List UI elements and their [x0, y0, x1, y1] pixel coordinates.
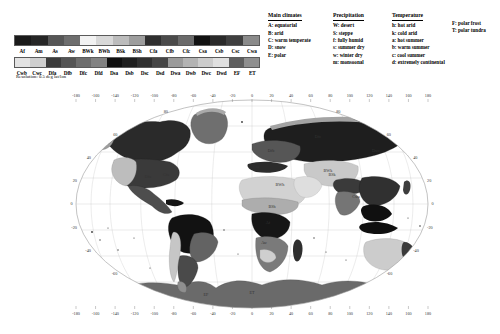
map-region-label-cwa: Cwa [352, 194, 360, 199]
climate-legend: AfAmAsAwBWkBWhBSkBShCfaCfbCfcCsaCsbCscCw… [14, 35, 260, 79]
lon-tick-top-12: 60 [309, 93, 313, 98]
lon-tick-top-6: -60 [191, 93, 197, 98]
legend-swatch-bwh [96, 36, 112, 45]
legend-code-dsa: Dsa [106, 68, 121, 79]
lon-tick-top-4: -100 [150, 93, 158, 98]
lon-tick-top-15: 120 [366, 93, 372, 98]
legend-swatch-dwd [213, 58, 228, 67]
lon-tick-bottom-8: -20 [230, 311, 236, 316]
lon-tick-bottom-0: -180 [72, 311, 80, 316]
lon-tick-top-0: -180 [72, 93, 80, 98]
lon-tick-bottom-15: 120 [366, 311, 372, 316]
legend-code-bwk: BWk [80, 46, 96, 57]
lon-tick-bottom-4: -100 [150, 311, 158, 316]
legend-label-row-1: AfAmAsAwBWkBWhBSkBShCfaCfbCfcCsaCsbCscCw… [14, 46, 260, 57]
legend-swatch-dfa [46, 58, 61, 67]
legend-swatch-af [15, 36, 31, 45]
map-region-label-bsk: BSk [328, 172, 336, 177]
lat-tick-right-2: -20 [427, 225, 433, 230]
legend-entry-main-1: B: arid [268, 30, 330, 37]
lon-tick-top-14: 100 [347, 93, 353, 98]
lon-tick-bottom-10: 20 [269, 311, 273, 316]
lon-tick-bottom-1: -160 [92, 311, 100, 316]
legend-heading-precipitation: Precipitation [333, 12, 364, 21]
legend-column-temperature: Temperature h: hot aridk: cold arida: ho… [392, 12, 452, 67]
map-region-label-aw: Aw [261, 240, 267, 245]
legend-entry-main-0: A: equatorial [268, 22, 330, 29]
lon-tick-bottom-5: -80 [171, 311, 177, 316]
legend-swatch-dwc [198, 58, 213, 67]
legend-swatch-dsb [122, 58, 137, 67]
legend-entry-precip-4: w: winter dry [333, 52, 391, 59]
legend-heading-main-climates: Main climates [268, 12, 302, 21]
legend-swatch-dfc [76, 58, 91, 67]
legend-code-dfd: Dfd [91, 68, 106, 79]
lon-tick-top-16: 140 [386, 93, 392, 98]
legend-column-precipitation: Precipitation W: desertS: steppef: fully… [333, 12, 391, 67]
legend-code-csa: Csa [194, 46, 210, 57]
legend-swatch-am [31, 36, 47, 45]
lon-tick-bottom-16: 140 [386, 311, 392, 316]
legend-entry-temp-0: h: hot arid [392, 22, 452, 29]
legend-code-cfc: Cfc [178, 46, 194, 57]
legend-code-et: ET [245, 68, 260, 79]
legend-entry-polar-0: F: polar frost [452, 20, 500, 27]
lon-tick-bottom-18: 180 [425, 311, 431, 316]
legend-code-cfb: Cfb [162, 46, 178, 57]
lon-tick-top-3: -120 [131, 93, 139, 98]
lat-tick-left-2: -20 [71, 225, 77, 230]
map-region-label-af: Af [266, 220, 271, 225]
legend-entry-precip-0: W: desert [333, 22, 391, 29]
map-canvas: ETEFDfcDfbDfaBWhBShAwAfCfaCfbCsaBWkDwcCw… [56, 82, 448, 322]
legend-code-dsb: Dsb [122, 68, 137, 79]
legend-entries-temperature: h: hot aridk: cold arida: hot summerb: w… [392, 22, 452, 66]
legend-swatch-cfc [178, 36, 194, 45]
legend-entry-precip-2: f: fully humid [333, 37, 391, 44]
legend-code-bsh: BSh [129, 46, 145, 57]
legend-swatch-cfa [145, 36, 161, 45]
lon-tick-top-5: -80 [171, 93, 177, 98]
legend-code-as: As [47, 46, 63, 57]
legend-entry-polar-1: T: polar tundra [452, 27, 500, 34]
legend-swatch-row-1 [14, 35, 260, 46]
legend-code-dwc: Dwc [199, 68, 214, 79]
lon-tick-bottom-11: 40 [289, 311, 293, 316]
landmass-antarctica [114, 280, 389, 311]
legend-swatch-csb [210, 36, 226, 45]
lat-tick-left-5: 40 [87, 155, 91, 160]
legend-entry-temp-4: c: cool summer [392, 52, 452, 59]
legend-entry-temp-1: k: cold arid [392, 30, 452, 37]
legend-entry-precip-3: s: summer dry [333, 44, 391, 51]
map-svg: ETEFDfcDfbDfaBWhBShAwAfCfaCfbCsaBWkDwcCw… [56, 82, 448, 322]
lon-tick-bottom-14: 100 [347, 311, 353, 316]
lat-tick-left-7: 80 [164, 109, 168, 114]
legend-swatch-cwb [15, 58, 30, 67]
legend-entry-main-3: D: snow [268, 44, 330, 51]
legend-entry-precip-1: S: steppe [333, 30, 391, 37]
map-region-label-bwh: BWh [276, 182, 286, 187]
legend-entries-main-climates: A: equatorialB: aridC: warm temperateD: … [268, 22, 330, 59]
map-region-label-csa: Csa [253, 164, 259, 169]
legend-code-dwb: Dwb [183, 68, 198, 79]
map-region-label-bsh: BSh [268, 204, 276, 209]
lat-tick-right-3: 0 [432, 201, 434, 206]
lon-tick-bottom-3: -120 [131, 311, 139, 316]
lon-tick-top-9: 0 [251, 93, 253, 98]
lon-tick-bottom-7: -40 [210, 311, 216, 316]
legend-code-dsc: Dsc [137, 68, 152, 79]
legend-swatch-dsc [137, 58, 152, 67]
legend-swatch-bwk [80, 36, 96, 45]
lon-tick-top-10: 20 [269, 93, 273, 98]
lon-tick-bottom-13: 80 [328, 311, 332, 316]
legend-code-csc: Csc [227, 46, 243, 57]
legend-code-cwa: Cwa [244, 46, 260, 57]
legend-entry-temp-3: b: warm summer [392, 44, 452, 51]
map-region-label-et: ET [249, 290, 255, 295]
legend-entry-main-4: E: polar [268, 52, 330, 59]
map-region-label-cfa: Cfa [163, 172, 169, 177]
map-region-label-dfa: Dfa [145, 174, 151, 179]
legend-code-bwh: BWh [96, 46, 112, 57]
legend-code-am: Am [30, 46, 46, 57]
lat-tick-right-1: -40 [413, 248, 419, 253]
legend-code-dfc: Dfc [76, 68, 91, 79]
